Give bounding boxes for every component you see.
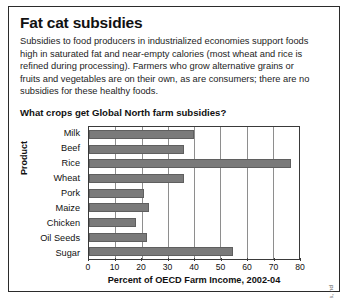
bar [89,174,184,183]
bar-row [89,127,299,142]
bar [89,159,291,168]
bar-row [89,244,299,259]
bar-row [89,171,299,186]
x-axis-tick-mark [168,258,169,261]
y-axis-tick-label: Oil Seeds [30,230,84,245]
x-axis-tick-label: 60 [242,262,252,272]
bar [89,247,233,256]
x-axis-tick-label: 70 [269,262,279,272]
bar-series [89,127,299,259]
y-axis-tick-label: Wheat [30,171,84,186]
y-axis-tick-label: Chicken [30,215,84,230]
bar-row [89,186,299,201]
x-axis-tick-mark [194,258,195,261]
x-axis-tick-label: 10 [110,262,120,272]
x-axis-tick-label: 50 [216,262,226,272]
bar-row [89,215,299,230]
x-axis-tick-mark [274,258,275,261]
y-axis-tick-label: Beef [30,141,84,156]
bar-row [89,230,299,245]
x-axis-tick-label: 20 [136,262,146,272]
page-title: Fat cat subsidies [20,15,315,31]
bar [89,203,149,212]
y-axis-tick-label: Rice [30,156,84,171]
y-axis-tick-label: Maize [30,200,84,215]
bar [89,218,136,227]
y-axis-tick-label: Sugar [30,245,84,260]
bar-row [89,200,299,215]
x-axis-tick-label: 30 [163,262,173,272]
x-axis-tick-mark [88,258,89,261]
figure-content: Fat cat subsidies Subsidies to food prod… [9,7,321,291]
x-axis-tick-mark [247,258,248,261]
bar [89,145,184,154]
bar [89,189,144,198]
x-axis-tick-mark [115,258,116,261]
standfirst-text: Subsidies to food producers in industria… [20,35,310,98]
x-axis-tick-label: 40 [189,262,199,272]
y-axis-tick-labels: MilkBeefRiceWheatPorkMaizeChickenOil See… [30,126,84,260]
x-axis-tick-label: 80 [295,262,305,272]
source-credit: Adapted from J. Hepburn, C. Bellman, 'Wh… [327,285,334,298]
y-axis-tick-label: Milk [30,126,84,141]
bar [89,233,147,242]
x-axis-tick-mark [300,258,301,261]
bar-row [89,142,299,157]
y-axis-tick-label: Pork [30,186,84,201]
x-axis-tick-mark [221,258,222,261]
bar [89,130,194,139]
y-axis-label: Product [19,141,29,175]
figure-panel: Fat cat subsidies Subsidies to food prod… [8,6,340,292]
chart-area: Product MilkBeefRiceWheatPorkMaizeChicke… [20,123,316,275]
bar-row [89,156,299,171]
x-axis-tick-mark [141,258,142,261]
credit-container: Adapted from J. Hepburn, C. Bellman, 'Wh… [318,7,336,291]
x-axis-tick-labels: 01020304050607080 [88,262,300,276]
plot-region [88,126,300,260]
x-axis-label: Percent of OECD Farm Income, 2002-04 [88,275,300,285]
x-axis-tick-label: 0 [86,262,91,272]
chart-title: What crops get Global North farm subsidi… [20,107,315,118]
